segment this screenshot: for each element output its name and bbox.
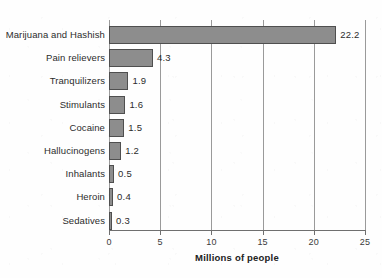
x-tick-label: 20 <box>299 237 329 247</box>
x-tick-mark <box>160 231 161 235</box>
bar-row: 0.4 <box>109 188 365 206</box>
x-tick-label: 0 <box>94 237 124 247</box>
bar-chart-screenshot: Millions of people 051015202522.2Marijua… <box>0 0 382 278</box>
category-label: Tranquilizers <box>1 75 105 86</box>
bar-row: 1.9 <box>109 72 365 90</box>
bar <box>109 26 336 44</box>
bar-row: 0.3 <box>109 212 365 230</box>
bar-row: 1.5 <box>109 119 365 137</box>
x-tick-mark <box>263 231 264 235</box>
x-tick-mark <box>211 231 212 235</box>
x-axis-title: Millions of people <box>109 252 365 263</box>
bar-value-label: 22.2 <box>340 29 359 40</box>
horizontal-bar-chart: Millions of people 051015202522.2Marijua… <box>0 0 382 278</box>
category-label: Marijuana and Hashish <box>1 29 105 40</box>
bar-value-label: 4.3 <box>157 52 171 63</box>
bar <box>109 49 153 67</box>
bar <box>109 212 112 230</box>
x-tick-label: 10 <box>196 237 226 247</box>
bar-value-label: 1.6 <box>129 99 143 110</box>
bar <box>109 96 125 114</box>
x-tick-mark <box>314 231 315 235</box>
x-tick-mark <box>365 231 366 235</box>
x-tick-label: 5 <box>145 237 175 247</box>
bar <box>109 119 124 137</box>
bar-row: 4.3 <box>109 49 365 67</box>
bar-row: 0.5 <box>109 165 365 183</box>
bar <box>109 188 113 206</box>
bar-value-label: 1.5 <box>128 122 142 133</box>
category-label: Pain relievers <box>1 52 105 63</box>
category-label: Heroin <box>1 191 105 202</box>
category-label: Hallucinogens <box>1 145 105 156</box>
x-tick-label: 25 <box>350 237 380 247</box>
category-label: Cocaine <box>1 122 105 133</box>
bar-row: 1.2 <box>109 142 365 160</box>
bar-value-label: 1.9 <box>132 75 146 86</box>
x-tick-mark <box>109 231 110 235</box>
bar-row: 1.6 <box>109 96 365 114</box>
bar-value-label: 0.4 <box>117 191 131 202</box>
bar <box>109 142 121 160</box>
category-label: Sedatives <box>1 215 105 226</box>
bar-row: 22.2 <box>109 26 365 44</box>
bar <box>109 72 128 90</box>
gridline <box>365 20 366 230</box>
x-axis-line <box>109 230 366 231</box>
bar-value-label: 0.3 <box>116 215 130 226</box>
bar-value-label: 1.2 <box>125 145 139 156</box>
bar-value-label: 0.5 <box>118 168 132 179</box>
category-label: Inhalants <box>1 168 105 179</box>
x-tick-label: 15 <box>248 237 278 247</box>
category-label: Stimulants <box>1 99 105 110</box>
bar <box>109 165 114 183</box>
